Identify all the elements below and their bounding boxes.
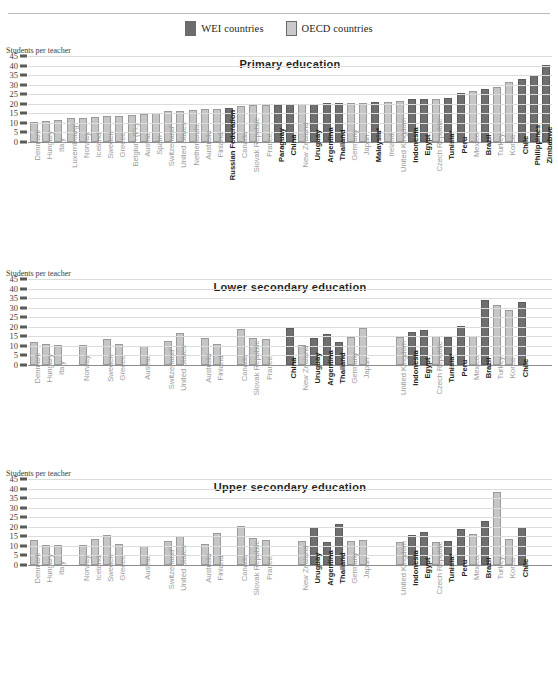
- x-label-slot: France: [260, 366, 272, 458]
- bar-slot: [65, 479, 77, 565]
- x-label-slot: Denmark: [28, 143, 40, 249]
- x-label-slot: Iceland: [89, 143, 101, 249]
- y-tick-mark: [20, 497, 27, 500]
- x-label-slot: Slovak Republic: [247, 143, 259, 249]
- bar-slot: [442, 479, 454, 565]
- x-label-slot: Netherlands: [186, 143, 198, 249]
- bar-slot: [77, 279, 89, 365]
- bar-slot: [369, 279, 381, 365]
- x-label-slot: [150, 366, 162, 458]
- x-label-slot: Russian Federation: [223, 143, 235, 249]
- bar-slot: [52, 279, 64, 365]
- x-label-slot: Argentina: [321, 143, 333, 249]
- y-tick-mark: [20, 93, 27, 96]
- bar-slot: [491, 479, 503, 565]
- bar-slot: [186, 479, 198, 565]
- x-label-slot: Austria: [138, 366, 150, 458]
- x-label-slot: Czech Republic: [430, 366, 442, 458]
- x-label-slot: Switzerland°: [162, 566, 174, 661]
- gridline: [28, 327, 552, 328]
- y-tick-mark: [20, 278, 27, 281]
- y-tick-mark: [20, 364, 27, 367]
- y-tick-label: 45: [10, 475, 19, 483]
- y-tick-label: 45: [10, 275, 19, 283]
- x-label-slot: Paraguay: [272, 143, 284, 249]
- x-label-slot: Tunisia*: [442, 366, 454, 458]
- x-label-slot: Chile: [516, 143, 528, 249]
- header-divider: [8, 13, 550, 14]
- x-label-slot: Thailand: [333, 143, 345, 249]
- y-tick-mark: [20, 121, 27, 124]
- x-label-slot: Chile: [516, 366, 528, 458]
- gridline: [28, 527, 552, 528]
- y-tick-mark: [20, 287, 27, 290]
- x-label-slot: [528, 366, 540, 458]
- y-tick-label: 0: [14, 138, 18, 146]
- y-axis-lower-secondary: 051015202530354045: [6, 279, 28, 365]
- bar-slot: [503, 56, 515, 142]
- y-tick-label: 45: [10, 52, 19, 60]
- gridline: [28, 517, 552, 518]
- bar-slot: [40, 56, 52, 142]
- x-label-slot: Mexico: [467, 366, 479, 458]
- x-label-slot: [223, 366, 235, 458]
- x-label-slot: France: [260, 143, 272, 249]
- bar-slot: [528, 279, 540, 365]
- x-label-slot: Uruguay: [308, 143, 320, 249]
- bar-slot: [516, 279, 528, 365]
- x-label-slot: Luxembourg°: [65, 143, 77, 249]
- bar-slot: [491, 279, 503, 365]
- x-label-slot: [65, 366, 77, 458]
- bar-slot: [89, 479, 101, 565]
- y-tick-mark: [20, 487, 27, 490]
- x-label-slot: Argentina: [321, 566, 333, 661]
- bar-slot: [442, 56, 454, 142]
- bar-slot: [223, 479, 235, 565]
- x-label-slot: Sweden: [101, 143, 113, 249]
- y-tick-mark: [20, 525, 27, 528]
- bar-slot: [113, 279, 125, 365]
- y-tick-mark: [20, 478, 27, 481]
- x-axis-labels-upper-secondary: DenmarkHungaryItalyNorwayIcelandSwedenGr…: [28, 566, 552, 661]
- x-label-slot: Australia: [199, 143, 211, 249]
- x-label-slot: Japan: [357, 566, 369, 661]
- x-label-slot: Belgium (Fl.): [126, 143, 138, 249]
- x-label-slot: Switzerland°: [162, 143, 174, 249]
- gridline: [28, 104, 552, 105]
- y-tick-label: 40: [10, 485, 19, 493]
- x-label-slot: [126, 366, 138, 458]
- x-label-slot: Egypt: [418, 143, 430, 249]
- y-tick-label: 20: [10, 100, 19, 108]
- y-axis-title-upper-secondary: Students per teacher: [6, 468, 558, 479]
- x-label-slot: Norway: [77, 143, 89, 249]
- gridline: [28, 479, 552, 480]
- y-tick-label: 10: [10, 342, 19, 350]
- x-label-slot: Turkey: [491, 566, 503, 661]
- gridline: [28, 536, 552, 537]
- x-label-slot: Spain: [150, 143, 162, 249]
- x-label-slot: [540, 366, 552, 458]
- y-tick-label: 30: [10, 304, 19, 312]
- legend-item-oecd: OECD countries: [286, 21, 373, 36]
- y-tick-mark: [20, 335, 27, 338]
- bar-slot: [113, 479, 125, 565]
- panel-primary-education: Students per teacher 051015202530354045 …: [0, 45, 558, 249]
- y-axis-title-lower-secondary: Students per teacher: [6, 268, 558, 279]
- x-label-slot: Hungary: [40, 566, 52, 661]
- bar-slot: [89, 279, 101, 365]
- y-tick-mark: [20, 64, 27, 67]
- x-label-slot: [65, 566, 77, 661]
- y-tick-label: 20: [10, 323, 19, 331]
- bar-slot: [260, 56, 272, 142]
- bar-slot: [77, 479, 89, 565]
- y-tick-label: 35: [10, 494, 19, 502]
- y-tick-mark: [20, 535, 27, 538]
- x-label-slot: Japan: [357, 366, 369, 458]
- x-label-slot: Peru: [455, 366, 467, 458]
- x-label-slot: [528, 566, 540, 661]
- x-label-slot: Italy: [52, 566, 64, 661]
- gridline: [28, 123, 552, 124]
- y-tick-mark: [20, 516, 27, 519]
- plot-area-lower-secondary: Lower secondary education: [28, 279, 552, 366]
- y-tick-label: 35: [10, 294, 19, 302]
